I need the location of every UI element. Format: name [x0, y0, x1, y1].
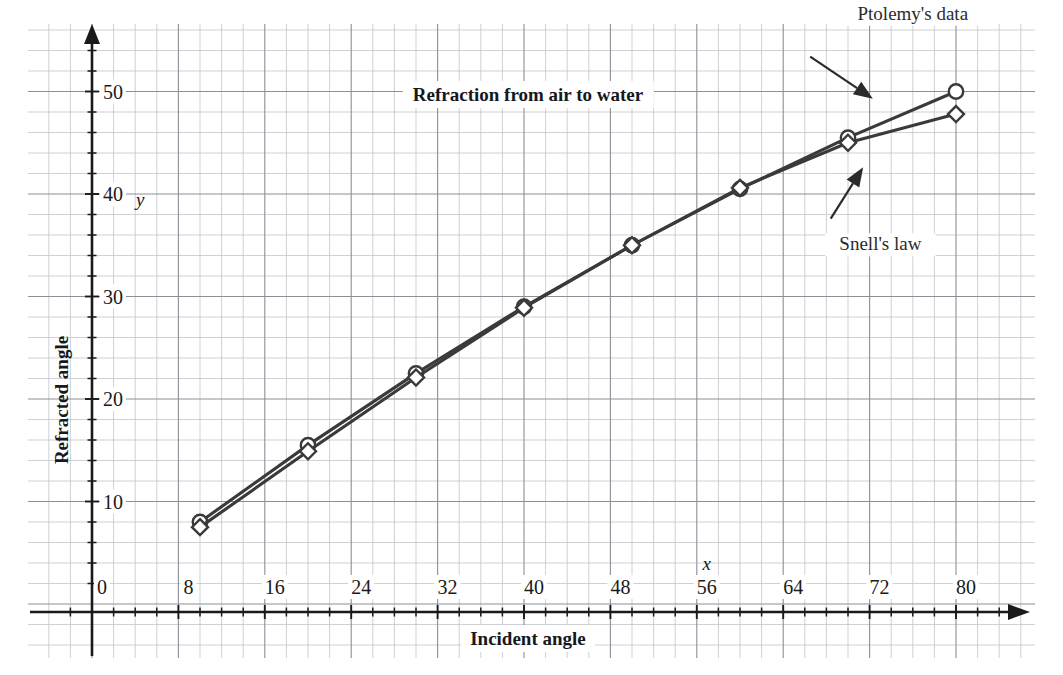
y-tick-label: 50 [103, 81, 123, 103]
x-tick-label: 16 [265, 576, 285, 598]
data-point-circle [949, 84, 963, 98]
y-variable-label: y [134, 189, 145, 210]
y-tick-label: 30 [103, 286, 123, 308]
x-tick-label: 32 [438, 576, 458, 598]
y-tick-label: 40 [103, 183, 123, 205]
x-tick-label: 24 [351, 576, 371, 598]
refraction-chart: 08162432404856647280 1020304050 Ptolemy'… [0, 0, 1063, 675]
x-tick-label: 0 [97, 576, 107, 598]
x-tick-label: 40 [524, 576, 544, 598]
y-tick-label: 10 [103, 491, 123, 513]
x-tick-label: 8 [183, 576, 193, 598]
annotation-label: Ptolemy's data [858, 3, 969, 24]
chart-title: Refraction from air to water [413, 84, 644, 105]
x-variable-label: x [702, 553, 712, 574]
x-tick-label: 56 [697, 576, 717, 598]
x-tick-label: 72 [870, 576, 890, 598]
y-axis-title: Refracted angle [51, 336, 72, 464]
x-axis-title: Incident angle [470, 628, 586, 649]
y-tick-label: 20 [103, 388, 123, 410]
annotation-label: Snell's law [839, 233, 921, 254]
y-axis-title-backing [0, 0, 71, 8]
x-tick-label: 48 [610, 576, 630, 598]
chart-canvas: 08162432404856647280 1020304050 Ptolemy'… [0, 0, 1063, 675]
x-tick-label: 80 [956, 576, 976, 598]
x-tick-label: 64 [783, 576, 803, 598]
